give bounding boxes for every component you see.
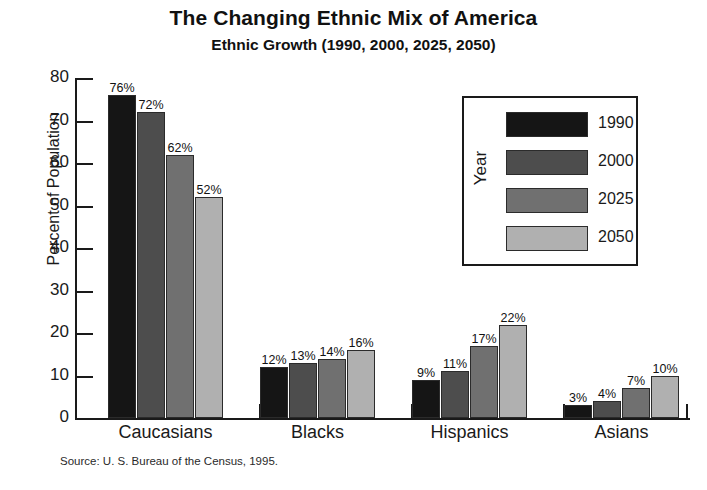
bar: 11% — [441, 371, 469, 418]
y-tick-label: 0 — [60, 407, 69, 427]
bar-value-label: 14% — [319, 345, 344, 359]
source-note: Source: U. S. Bureau of the Census, 1995… — [60, 455, 278, 467]
x-separator-tick — [686, 404, 688, 418]
y-tick-mark — [75, 206, 93, 208]
legend-label: 2000 — [598, 152, 634, 170]
bar-value-label: 10% — [652, 362, 677, 376]
bar-value-label: 72% — [138, 98, 163, 112]
bar-value-label: 76% — [109, 81, 134, 95]
legend-title: Year — [471, 113, 491, 223]
bar-value-label: 12% — [261, 353, 286, 367]
bar: 13% — [289, 363, 317, 418]
y-tick-mark — [75, 291, 93, 293]
y-tick-mark — [75, 376, 93, 378]
bar: 12% — [260, 367, 288, 418]
bar-value-label: 52% — [196, 183, 221, 197]
chart-subtitle: Ethnic Growth (1990, 2000, 2025, 2050) — [0, 36, 707, 54]
bar-value-label: 4% — [598, 387, 616, 401]
y-tick-mark — [75, 333, 93, 335]
bar-value-label: 16% — [348, 336, 373, 350]
y-tick-label: 70 — [50, 110, 69, 130]
bar-value-label: 22% — [500, 311, 525, 325]
bar: 22% — [499, 325, 527, 419]
chart-page: The Changing Ethnic Mix of America Ethni… — [0, 0, 707, 490]
category-label: Caucasians — [118, 422, 212, 443]
legend-swatch — [506, 226, 588, 251]
bar-value-label: 3% — [569, 391, 587, 405]
y-tick-mark — [75, 121, 93, 123]
y-tick-label: 50 — [50, 195, 69, 215]
bar: 14% — [318, 359, 346, 419]
legend-swatch — [506, 112, 588, 137]
bar-value-label: 62% — [167, 141, 192, 155]
category-label: Asians — [594, 422, 648, 443]
bar: 17% — [470, 346, 498, 418]
bar: 9% — [412, 380, 440, 418]
y-tick-mark — [75, 78, 93, 80]
y-tick-label: 20 — [50, 322, 69, 342]
bar-value-label: 9% — [417, 366, 435, 380]
y-tick-mark — [75, 418, 93, 420]
y-tick-label: 30 — [50, 280, 69, 300]
legend-label: 2050 — [598, 228, 634, 246]
bar-value-label: 17% — [471, 332, 496, 346]
bar: 52% — [195, 197, 223, 418]
y-tick-mark — [75, 163, 93, 165]
bar: 62% — [166, 155, 194, 419]
y-tick-label: 10 — [50, 365, 69, 385]
legend-label: 2025 — [598, 190, 634, 208]
bar-value-label: 13% — [290, 349, 315, 363]
bar: 16% — [347, 350, 375, 418]
category-label: Hispanics — [430, 422, 508, 443]
bar: 76% — [108, 95, 136, 418]
legend-swatch — [506, 150, 588, 175]
legend-label: 1990 — [598, 114, 634, 132]
bar: 10% — [651, 376, 679, 419]
bar: 7% — [622, 388, 650, 418]
legend: Year 1990200020252050 — [462, 96, 638, 266]
bar: 72% — [137, 112, 165, 418]
y-tick-label: 60 — [50, 152, 69, 172]
bar-value-label: 11% — [443, 357, 467, 371]
legend-swatch — [506, 188, 588, 213]
bar: 3% — [564, 405, 592, 418]
y-tick-mark — [75, 248, 93, 250]
x-axis-line — [75, 418, 690, 420]
y-tick-label: 80 — [50, 67, 69, 87]
bar-value-label: 7% — [627, 374, 645, 388]
y-tick-label: 40 — [50, 237, 69, 257]
chart-title: The Changing Ethnic Mix of America — [0, 6, 707, 30]
bar: 4% — [593, 401, 621, 418]
category-label: Blacks — [291, 422, 344, 443]
